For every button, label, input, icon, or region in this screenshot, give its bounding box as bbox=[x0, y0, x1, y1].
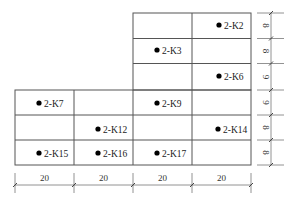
point-2-K14: 2-K14 bbox=[215, 125, 247, 135]
point-2-K3: 2-K3 bbox=[154, 46, 181, 56]
svg-text:2-K16: 2-K16 bbox=[103, 149, 128, 159]
svg-text:2-K12: 2-K12 bbox=[103, 125, 128, 135]
point-2-K9: 2-K9 bbox=[154, 99, 181, 109]
right-dimension: 8 8 9 9 8 8 bbox=[257, 11, 284, 167]
point-2-K7: 2-K7 bbox=[36, 99, 63, 109]
bottom-dimension: 20 20 20 20 bbox=[13, 173, 253, 193]
svg-text:2-K9: 2-K9 bbox=[162, 99, 182, 109]
svg-text:2-K7: 2-K7 bbox=[44, 99, 64, 109]
point-2-K12: 2-K12 bbox=[95, 125, 127, 135]
point-2-K2: 2-K2 bbox=[216, 21, 243, 31]
svg-text:2-K17: 2-K17 bbox=[162, 149, 187, 159]
svg-text:8: 8 bbox=[261, 150, 271, 155]
svg-text:8: 8 bbox=[261, 49, 271, 54]
svg-text:2-K15: 2-K15 bbox=[44, 149, 69, 159]
svg-text:20: 20 bbox=[217, 173, 227, 183]
svg-text:8: 8 bbox=[261, 23, 271, 28]
svg-text:9: 9 bbox=[261, 75, 271, 80]
point-2-K6: 2-K6 bbox=[216, 72, 243, 82]
svg-text:20: 20 bbox=[158, 173, 168, 183]
svg-text:8: 8 bbox=[261, 125, 271, 130]
point-2-K17: 2-K17 bbox=[154, 149, 186, 159]
grid-diagram: 2-K2 2-K3 2-K6 2-K7 2-K9 2-K12 2-K14 2-K… bbox=[0, 0, 286, 200]
svg-text:2-K3: 2-K3 bbox=[162, 46, 182, 56]
svg-text:20: 20 bbox=[99, 173, 109, 183]
svg-text:2-K6: 2-K6 bbox=[224, 72, 244, 82]
svg-text:2-K14: 2-K14 bbox=[223, 125, 248, 135]
svg-text:20: 20 bbox=[40, 173, 50, 183]
svg-text:9: 9 bbox=[261, 100, 271, 105]
svg-text:2-K2: 2-K2 bbox=[224, 21, 244, 31]
point-2-K16: 2-K16 bbox=[95, 149, 127, 159]
point-2-K15: 2-K15 bbox=[36, 149, 68, 159]
